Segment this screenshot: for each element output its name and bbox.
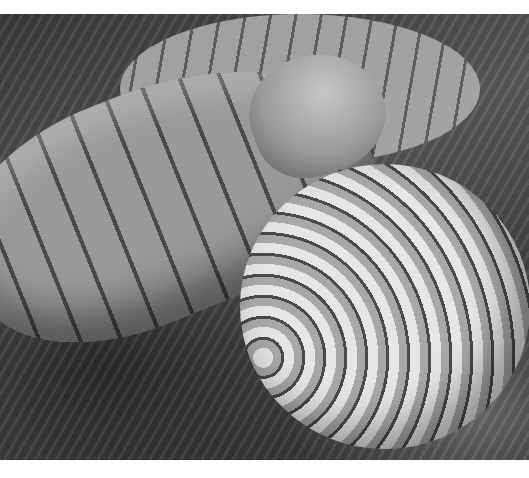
sem-micrograph	[0, 14, 529, 460]
worm-spiral-coil	[240, 164, 529, 449]
